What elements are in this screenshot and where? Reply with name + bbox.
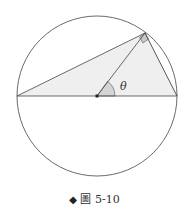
- figure-caption: ◆ 圖 5-10: [0, 190, 189, 206]
- angle-label: θ: [120, 80, 127, 93]
- diamond-icon: ◆: [69, 194, 77, 205]
- caption-text: 圖 5-10: [80, 193, 119, 206]
- center-point: [96, 95, 99, 98]
- circle-diagram: θ: [0, 0, 189, 190]
- inscribed-triangle: [17, 33, 177, 96]
